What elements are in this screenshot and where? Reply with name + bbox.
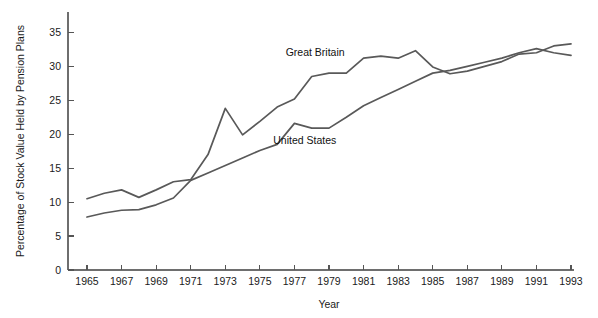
y-axis-title: Percentage of Stock Value Held by Pensio… [14,25,26,257]
x-tick-label-1975: 1975 [248,275,272,287]
y-tick-label-5: 5 [55,230,61,242]
y-tick-label-35: 35 [49,26,61,38]
x-tick-label-1973: 1973 [214,275,238,287]
x-tick-label-1981: 1981 [352,275,376,287]
x-tick-label-1989: 1989 [490,275,514,287]
series-label-great-britain: Great Britain [286,46,345,58]
x-tick-label-1983: 1983 [386,275,410,287]
x-tick-label-1991: 1991 [525,275,549,287]
x-tick-label-1967: 1967 [110,275,134,287]
series-line-great-britain [87,44,571,199]
axis-ticks [68,32,571,270]
line-chart: 05101520253035 1965196719691971197319751… [0,0,598,318]
y-tick-label-15: 15 [49,162,61,174]
x-axis-tick-labels: 1965196719691971197319751977197919811983… [75,275,583,287]
x-tick-label-1985: 1985 [421,275,445,287]
y-tick-label-20: 20 [49,128,61,140]
series-inline-labels: Great BritainUnited States [273,46,345,146]
x-tick-label-1965: 1965 [75,275,99,287]
series-label-united-states: United States [273,134,336,146]
x-tick-label-1971: 1971 [179,275,203,287]
y-axis-tick-labels: 05101520253035 [49,26,61,276]
data-series [87,44,571,217]
chart-container: 05101520253035 1965196719691971197319751… [0,0,598,318]
x-tick-label-1993: 1993 [559,275,583,287]
y-tick-label-30: 30 [49,60,61,72]
y-tick-label-25: 25 [49,94,61,106]
x-tick-label-1979: 1979 [317,275,341,287]
x-tick-label-1969: 1969 [144,275,168,287]
y-tick-label-0: 0 [55,264,61,276]
x-tick-label-1987: 1987 [456,275,480,287]
y-tick-label-10: 10 [49,196,61,208]
x-tick-label-1977: 1977 [283,275,307,287]
x-axis-title: Year [318,298,340,310]
